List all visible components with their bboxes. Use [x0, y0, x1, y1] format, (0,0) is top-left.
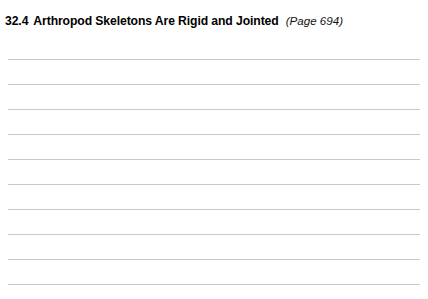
writing-rule-line [8, 109, 420, 110]
writing-rule-line [8, 209, 420, 210]
writing-rule-line [8, 59, 420, 60]
writing-rule-line [8, 134, 420, 135]
ruled-writing-area [0, 0, 428, 299]
writing-rule-line [8, 184, 420, 185]
writing-rule-line [8, 259, 420, 260]
worksheet-page: 32.4Arthropod Skeletons Are Rigid and Jo… [0, 0, 428, 299]
writing-rule-line [8, 84, 420, 85]
writing-rule-line [8, 284, 420, 285]
writing-rule-line [8, 159, 420, 160]
writing-rule-line [8, 234, 420, 235]
